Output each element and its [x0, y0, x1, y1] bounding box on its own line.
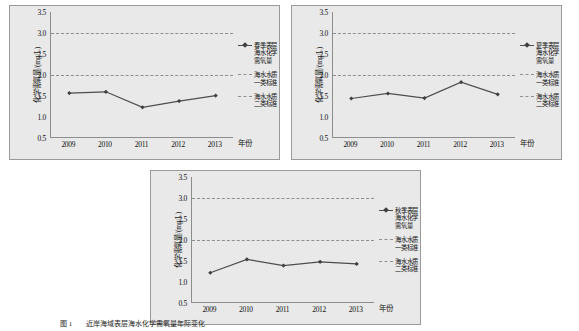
data-point-marker — [318, 260, 322, 264]
data-point-marker — [177, 99, 181, 103]
y-tick-label: 3.5 — [320, 8, 328, 17]
y-tick-label: 1.5 — [320, 92, 328, 101]
y-tick-label: 2.0 — [320, 71, 328, 80]
y-tick-label: 3.5 — [179, 173, 187, 182]
legend-spring: 春季表层海水化学需氧量 海水水质一类标准 海水水质二类标准 — [238, 42, 282, 115]
legend-line-dashed-icon — [379, 261, 393, 262]
legend-line-solid-icon — [238, 45, 252, 46]
y-tick-label: 2.5 — [320, 50, 328, 59]
legend-diamond-marker-icon — [383, 208, 389, 214]
data-point-marker — [281, 264, 285, 268]
x-tick-label: 2010 — [380, 140, 394, 149]
y-axis-ticks-summer: 3.53.02.52.01.51.00.5 — [308, 12, 330, 138]
legend-line-dashed-icon — [520, 96, 534, 97]
legend-line-dashed-icon — [238, 74, 252, 75]
x-axis-label-spring: 年份 — [238, 137, 252, 148]
series-line-autumn — [192, 177, 375, 303]
legend-label-series-autumn: 秋季表层海水化学需氧量 — [395, 207, 423, 229]
legend-diamond-marker-icon — [242, 43, 248, 49]
y-tick-label: 0.5 — [320, 134, 328, 143]
data-point-marker — [459, 80, 463, 84]
figure-caption-number: 图 1 — [60, 320, 72, 328]
legend-line-dashed-icon — [520, 74, 534, 75]
legend-item-class2-spring: 海水水质二类标准 — [238, 93, 282, 108]
plot-inner-autumn — [192, 177, 374, 302]
x-tick-label: 2009 — [202, 305, 216, 314]
data-point-marker — [349, 96, 353, 100]
x-axis-label-summer: 年份 — [520, 137, 534, 148]
legend-item-series-autumn: 秋季表层海水化学需氧量 — [379, 207, 423, 229]
legend-item-class2-autumn: 海水水质二类标准 — [379, 258, 423, 273]
legend-label-series-spring: 春季表层海水化学需氧量 — [254, 42, 282, 64]
plot-area-autumn — [191, 177, 374, 303]
x-axis-ticks-spring: 20092010201120122013 — [50, 140, 233, 154]
y-tick-label: 3.0 — [38, 29, 46, 38]
plot-area-summer — [332, 12, 515, 138]
legend-diamond-marker-icon — [524, 43, 530, 49]
y-tick-label: 1.0 — [179, 278, 187, 287]
chart-panel-summer: 化学需氧量/(mg/L) 3.53.02.52.01.51.00.5 20092… — [291, 5, 562, 160]
data-point-marker — [208, 271, 212, 275]
legend-label-class2-summer: 海水水质二类标准 — [536, 93, 564, 108]
legend-item-series-spring: 春季表层海水化学需氧量 — [238, 42, 282, 64]
y-tick-label: 3.0 — [179, 194, 187, 203]
y-tick-label: 1.0 — [320, 113, 328, 122]
legend-summer: 夏季表层海水化学需氧量 海水水质一类标准 海水水质二类标准 — [520, 42, 564, 115]
legend-line-solid-icon — [520, 45, 534, 46]
x-tick-label: 2013 — [490, 140, 504, 149]
y-tick-label: 2.0 — [179, 236, 187, 245]
legend-label-class2-spring: 海水水质二类标准 — [254, 93, 282, 108]
y-tick-label: 1.5 — [179, 257, 187, 266]
y-axis-ticks-autumn: 3.53.02.52.01.51.00.5 — [167, 177, 189, 303]
legend-item-series-summer: 夏季表层海水化学需氧量 — [520, 42, 564, 64]
plot-area-spring — [50, 12, 233, 138]
x-tick-label: 2012 — [171, 140, 185, 149]
legend-line-solid-icon — [379, 210, 393, 211]
legend-label-series-summer: 夏季表层海水化学需氧量 — [536, 42, 564, 64]
series-line-summer — [333, 12, 516, 138]
x-axis-ticks-summer: 20092010201120122013 — [332, 140, 515, 154]
x-axis-ticks-autumn: 20092010201120122013 — [191, 305, 374, 319]
x-tick-label: 2010 — [98, 140, 112, 149]
y-tick-label: 1.0 — [38, 113, 46, 122]
plot-inner-spring — [51, 12, 233, 137]
x-tick-label: 2011 — [417, 140, 431, 149]
legend-label-class1-spring: 海水水质一类标准 — [254, 71, 282, 86]
x-tick-label: 2012 — [453, 140, 467, 149]
figure-seawater-cod: 化学需氧量/(mg/L) 3.53.02.52.01.51.00.5 20092… — [0, 0, 579, 331]
chart-panel-spring: 化学需氧量/(mg/L) 3.53.02.52.01.51.00.5 20092… — [9, 5, 280, 160]
legend-autumn: 秋季表层海水化学需氧量 海水水质一类标准 海水水质二类标准 — [379, 207, 423, 280]
y-tick-label: 0.5 — [38, 134, 46, 143]
data-point-marker — [140, 105, 144, 109]
chart-panel-autumn: 化学需氧量/(mg/L) 3.53.02.52.01.51.00.5 20092… — [150, 170, 421, 325]
x-tick-label: 2011 — [276, 305, 290, 314]
legend-item-class1-spring: 海水水质一类标准 — [238, 71, 282, 86]
legend-label-class2-autumn: 海水水质二类标准 — [395, 258, 423, 273]
x-tick-label: 2010 — [239, 305, 253, 314]
y-tick-label: 2.5 — [38, 50, 46, 59]
plot-inner-summer — [333, 12, 515, 137]
legend-item-class1-autumn: 海水水质一类标准 — [379, 236, 423, 251]
x-tick-label: 2013 — [349, 305, 363, 314]
legend-line-dashed-icon — [379, 239, 393, 240]
figure-caption-text: 近岸海域表层海水化学需氧量年际变化 — [86, 320, 205, 328]
x-tick-label: 2012 — [312, 305, 326, 314]
x-tick-label: 2011 — [135, 140, 149, 149]
y-tick-label: 2.0 — [38, 71, 46, 80]
data-point-marker — [355, 262, 359, 266]
data-point-marker — [104, 90, 108, 94]
data-point-marker — [214, 93, 218, 97]
x-tick-label: 2013 — [208, 140, 222, 149]
x-axis-label-autumn: 年份 — [379, 302, 393, 313]
x-tick-label: 2009 — [61, 140, 75, 149]
legend-item-class2-summer: 海水水质二类标准 — [520, 93, 564, 108]
y-tick-label: 2.5 — [179, 215, 187, 224]
data-point-marker — [496, 92, 500, 96]
data-point-marker — [386, 91, 390, 95]
series-line-spring — [51, 12, 234, 138]
x-tick-label: 2009 — [343, 140, 357, 149]
legend-label-class1-autumn: 海水水质一类标准 — [395, 236, 423, 251]
y-tick-label: 1.5 — [38, 92, 46, 101]
y-axis-ticks-spring: 3.53.02.52.01.51.00.5 — [26, 12, 48, 138]
data-point-marker — [245, 257, 249, 261]
